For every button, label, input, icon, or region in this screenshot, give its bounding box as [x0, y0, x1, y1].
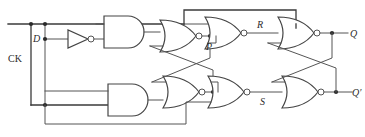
nor-gate-lower [152, 76, 218, 108]
label-p: P [205, 41, 212, 52]
inverter-d-body [68, 30, 88, 48]
and-bottom-body [108, 84, 148, 116]
label-qnot: Q′ [352, 87, 362, 98]
nor-r-bubble [241, 30, 247, 36]
logic-diagram-canvas: D CK P R S Q Q′ [0, 0, 365, 137]
nor-qnot-bubble [318, 89, 324, 95]
nor-gate-q [268, 17, 348, 49]
nor-qnot-body [282, 76, 318, 108]
circuit-svg: D CK P R S Q Q′ [0, 0, 365, 137]
and-gate-top [96, 16, 160, 48]
label-d: D [32, 33, 41, 44]
label-r: R [256, 19, 263, 30]
nor-gate-qnot [272, 76, 352, 108]
nor-p-body [160, 20, 196, 52]
and-gate-bottom [45, 84, 163, 116]
inverter-d-bubble [88, 36, 94, 42]
and-top-body [104, 16, 144, 48]
label-q: Q [350, 28, 358, 39]
nor-q-bubble [314, 30, 320, 36]
nor-lower-bubble [199, 89, 205, 95]
label-ck: CK [8, 53, 23, 64]
nor-s-body [208, 76, 244, 108]
junction-ck-top [29, 22, 33, 26]
junction-d-stub [43, 37, 47, 41]
nor-q-body [278, 17, 314, 49]
junction-d-top [43, 22, 47, 26]
nor-s-bubble [244, 89, 250, 95]
nor-p-bubble [196, 33, 202, 39]
nor-lower-body [163, 76, 199, 108]
inverter-d [68, 30, 104, 48]
label-s: S [260, 96, 265, 107]
